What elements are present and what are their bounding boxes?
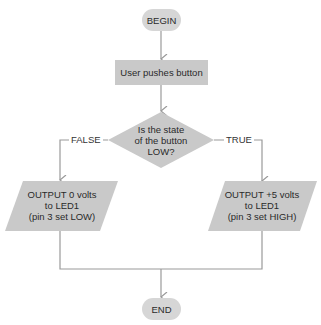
edge-decision-false <box>60 140 108 180</box>
flowchart-canvas <box>0 0 321 325</box>
edge-low-to-merge <box>60 231 262 269</box>
decision-line-1: Is the state <box>121 124 201 135</box>
edge-label-false: FALSE <box>69 134 103 145</box>
edge-decision-true <box>214 140 262 181</box>
edge-label-true: TRUE <box>224 134 254 145</box>
process-label: User pushes button <box>115 67 208 78</box>
decision-line-3: LOW? <box>121 146 201 157</box>
output-low-line-1: OUTPUT 0 volts <box>12 189 112 200</box>
output-high-line-2: to LED1 <box>212 200 312 211</box>
output-low-line-3: (pin 3 set LOW) <box>12 211 112 222</box>
output-high-label: OUTPUT +5 volts to LED1 (pin 3 set HIGH) <box>212 189 312 222</box>
decision-line-2: of the button <box>121 135 201 146</box>
decision-label: Is the state of the button LOW? <box>121 124 201 157</box>
output-high-line-3: (pin 3 set HIGH) <box>212 211 312 222</box>
output-high-line-1: OUTPUT +5 volts <box>212 189 312 200</box>
output-low-line-2: to LED1 <box>12 200 112 211</box>
end-label: END <box>142 304 181 315</box>
output-low-label: OUTPUT 0 volts to LED1 (pin 3 set LOW) <box>12 189 112 222</box>
begin-label: BEGIN <box>142 15 181 26</box>
